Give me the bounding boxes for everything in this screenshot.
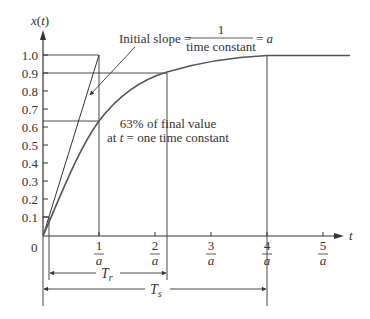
- y-axis-title: x(t): [30, 13, 49, 28]
- svg-text:a: a: [152, 253, 159, 268]
- reference-lines: [43, 55, 267, 306]
- svg-text:0.8: 0.8: [22, 84, 38, 99]
- svg-text:0.9: 0.9: [22, 66, 38, 81]
- origin-label: 0: [31, 240, 38, 255]
- svg-text:0.4: 0.4: [22, 156, 39, 171]
- svg-text:a: a: [320, 253, 327, 268]
- x-tick-labels: 1 a 2 a 3 a 4 a 5 a: [94, 238, 328, 268]
- svg-text:at t = one time constant: at t = one time constant: [107, 130, 229, 145]
- settling-time-dimension: Ts: [44, 282, 266, 299]
- sixty-three-percent-annotation: 63% of final value at t = one time const…: [107, 116, 229, 145]
- svg-text:1.0: 1.0: [22, 48, 38, 63]
- svg-text:0.5: 0.5: [22, 138, 38, 153]
- initial-slope-line: [43, 55, 99, 236]
- svg-text:time constant: time constant: [186, 39, 256, 54]
- x-axis-title: t: [349, 228, 353, 243]
- x-axis-arrow-icon: [334, 233, 344, 239]
- svg-text:5: 5: [320, 238, 327, 253]
- svg-text:0.2: 0.2: [22, 192, 38, 207]
- svg-text:Tr: Tr: [101, 266, 113, 283]
- y-ticks: [43, 55, 48, 217]
- svg-text:0.3: 0.3: [22, 174, 38, 189]
- slope-annotation: Initial slope = 1 time constant = a: [119, 22, 274, 54]
- svg-text:Ts: Ts: [150, 282, 162, 299]
- svg-text:0.6: 0.6: [22, 120, 39, 135]
- svg-text:1: 1: [96, 238, 103, 253]
- svg-text:2: 2: [152, 238, 159, 253]
- y-tick-labels: 1.0 0.9 0.8 0.7 0.6 0.5 0.4 0.3 0.2 0.1: [22, 48, 39, 225]
- svg-text:0.7: 0.7: [22, 102, 39, 117]
- rise-time-dimension: Tr: [50, 266, 166, 283]
- y-axis-arrow-icon: [40, 30, 46, 40]
- svg-text:a: a: [208, 253, 215, 268]
- step-response-chart: x(t) t 1.0 0.9 0.8 0.7 0.6 0.5 0.4 0.3 0…: [0, 0, 370, 319]
- step-response-curve: [43, 56, 350, 237]
- svg-text:3: 3: [208, 238, 215, 253]
- svg-text:63% of final value: 63% of final value: [120, 116, 217, 131]
- svg-text:1: 1: [218, 22, 225, 37]
- svg-text:0.1: 0.1: [22, 210, 38, 225]
- slope-annotation-arrow: [90, 47, 135, 95]
- svg-text:Initial slope =: Initial slope =: [119, 31, 191, 46]
- svg-text:= a: = a: [256, 31, 274, 46]
